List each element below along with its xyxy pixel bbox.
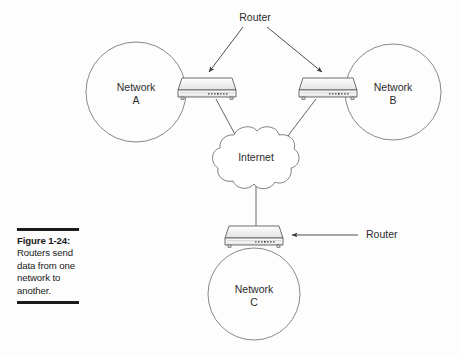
router-right-device xyxy=(299,78,357,99)
caption-title: Figure 1-24: xyxy=(17,235,83,247)
router-left-top-face xyxy=(178,78,236,90)
caption-text: Figure 1-24: Routers send data from one … xyxy=(17,235,83,297)
caption-body: Routers send data from one network to an… xyxy=(17,247,83,297)
network-b-label-line1: Network xyxy=(374,81,413,93)
network-a-label-line1: Network xyxy=(117,81,156,93)
network-b-node: Network B xyxy=(345,44,441,140)
network-b-label-line2: B xyxy=(389,94,396,106)
router-callout-top: Router xyxy=(209,11,322,72)
router-callout-bottom: Router xyxy=(292,228,398,240)
router-bottom-foot-right xyxy=(277,245,280,247)
router-callout-bottom-label: Router xyxy=(366,228,398,240)
router-bottom-top-face xyxy=(225,226,283,238)
caption-rule-top xyxy=(17,228,79,231)
router-bottom-foot-left xyxy=(228,245,231,247)
internet-cloud-label: Internet xyxy=(238,151,274,163)
caption-rule-bottom xyxy=(17,301,79,304)
router-right-foot-right xyxy=(351,97,354,99)
network-a-node: Network A xyxy=(86,42,186,142)
router-bottom-device xyxy=(225,226,283,247)
figure-caption: Figure 1-24: Routers send data from one … xyxy=(17,228,83,304)
network-a-label-line2: A xyxy=(132,94,139,106)
router-right-top-face xyxy=(299,78,357,90)
router-callout-top-label: Router xyxy=(239,11,271,23)
network-c-label-line1: Network xyxy=(235,283,274,295)
network-c-node: Network C xyxy=(208,248,300,340)
router-left-foot-left xyxy=(181,97,184,99)
link-router-right-to-internet xyxy=(284,99,316,141)
network-c-label-line2: C xyxy=(250,296,258,308)
router-callout-top-arrow-right xyxy=(267,27,322,72)
router-callout-top-arrow-left xyxy=(209,27,243,72)
figure-page: Network A Network B Network C Internet xyxy=(0,0,462,355)
router-right-foot-left xyxy=(302,97,305,99)
internet-cloud-node: Internet xyxy=(213,127,299,189)
router-left-device xyxy=(178,78,236,99)
router-left-foot-right xyxy=(230,97,233,99)
